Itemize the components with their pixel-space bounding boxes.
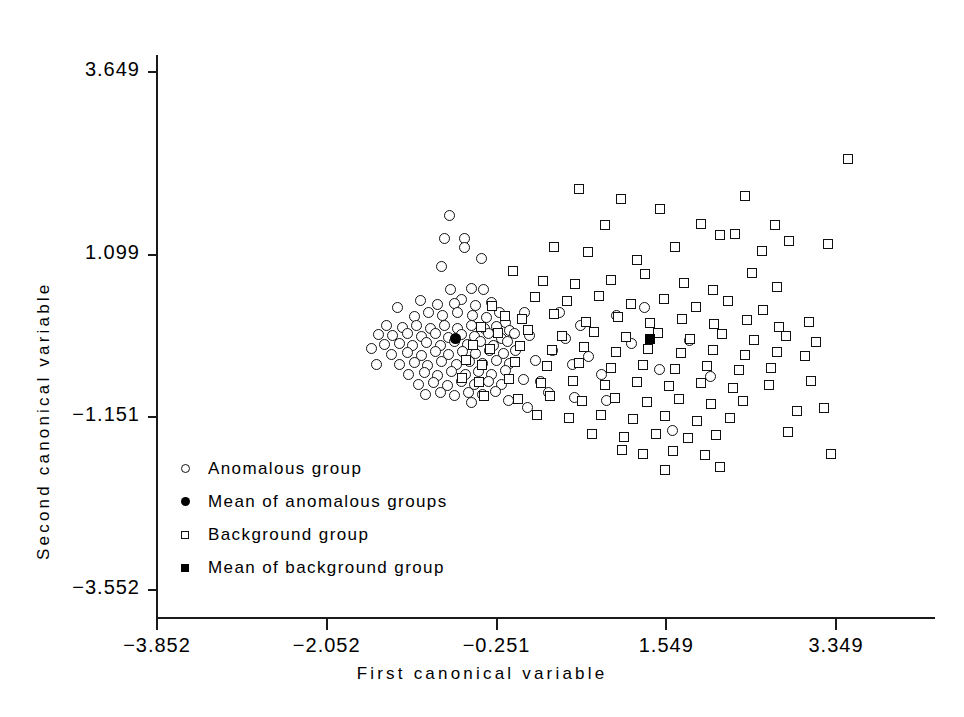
data-point-background: [594, 291, 604, 301]
data-point-anomalous: [439, 320, 450, 331]
data-point-background: [819, 403, 829, 413]
legend-item: Anomalous group: [176, 452, 448, 485]
data-point-anomalous: [466, 283, 477, 294]
data-point-anomalous: [639, 302, 650, 313]
data-point-anomalous: [530, 355, 541, 366]
x-tick-label: 3.349: [766, 634, 906, 657]
data-point-background: [523, 325, 533, 335]
x-tick-label: 1.549: [596, 634, 736, 657]
data-point-background: [642, 397, 652, 407]
data-point-background: [696, 378, 706, 388]
data-point-anomalous: [419, 367, 430, 378]
data-point-anomalous: [366, 343, 377, 354]
data-point-background: [485, 344, 495, 354]
y-tick-label: −1.151: [0, 403, 140, 426]
data-point-background: [638, 449, 648, 459]
data-point-anomalous: [466, 397, 477, 408]
data-point-background: [600, 220, 610, 230]
y-tick-label: 1.099: [0, 241, 140, 264]
data-point-background: [717, 329, 727, 339]
data-point-background: [457, 373, 467, 383]
data-point-background: [734, 365, 744, 375]
data-point-background: [758, 305, 768, 315]
data-point-background: [843, 154, 853, 164]
data-point-anomalous: [439, 233, 450, 244]
filled-square-icon: [181, 564, 189, 572]
legend-item-label: Mean of anomalous groups: [208, 492, 448, 512]
data-point-background: [655, 204, 665, 214]
data-point-background: [515, 341, 525, 351]
data-point-background: [617, 445, 627, 455]
data-point-background: [611, 347, 621, 357]
open-square-icon: [181, 531, 189, 539]
data-point-background: [706, 399, 716, 409]
data-point-anomalous: [654, 364, 665, 375]
data-point-anomalous: [459, 242, 470, 253]
x-tick-mark: [665, 619, 667, 630]
data-point-background: [766, 363, 776, 373]
data-point-background: [723, 296, 733, 306]
data-point-background: [747, 268, 757, 278]
scatter-plot-figure: 3.6491.099−1.151−3.552 −3.852−2.052−0.25…: [0, 0, 964, 717]
data-point-anomalous: [490, 386, 501, 397]
data-point-background: [545, 391, 555, 401]
data-point-background: [696, 219, 706, 229]
legend-item-label: Anomalous group: [208, 459, 362, 479]
data-point-background: [638, 360, 648, 370]
data-point-anomalous: [446, 366, 457, 377]
data-point-anomalous: [421, 337, 432, 348]
open-circle-icon: [181, 464, 190, 473]
y-tick-label: 3.649: [0, 58, 140, 81]
data-point-background: [579, 342, 589, 352]
data-point-anomalous: [394, 359, 405, 370]
data-point-background: [685, 334, 695, 344]
data-point-background: [643, 344, 653, 354]
data-point-background: [581, 317, 591, 327]
data-point-background: [800, 351, 810, 361]
data-point-anomalous: [402, 347, 413, 358]
data-point-anomalous: [392, 302, 403, 313]
data-point-background: [616, 194, 626, 204]
data-point-anomalous: [403, 369, 414, 380]
data-point-anomalous: [445, 284, 456, 295]
data-point-background: [702, 361, 712, 371]
data-point-background: [770, 220, 780, 230]
data-point-background: [784, 236, 794, 246]
data-point-anomalous: [436, 356, 447, 367]
data-point-background: [640, 269, 650, 279]
data-point-anomalous: [394, 338, 405, 349]
legend-item-label: Background group: [208, 525, 369, 545]
data-point-background: [574, 184, 584, 194]
data-point-anomalous: [463, 387, 474, 398]
data-point-background: [683, 433, 693, 443]
data-point-background: [568, 376, 578, 386]
data-point-anomalous: [476, 253, 487, 264]
x-tick-label: −3.852: [87, 634, 227, 657]
data-point-background: [711, 430, 721, 440]
x-tick-mark: [835, 619, 837, 630]
data-point-background: [628, 414, 638, 424]
data-point-background: [677, 314, 687, 324]
data-point-anomalous: [411, 320, 422, 331]
legend-marker-icon: [176, 531, 194, 539]
legend: Anomalous groupMean of anomalous groupsB…: [176, 452, 448, 584]
data-point-anomalous: [437, 310, 448, 321]
data-point-background: [613, 312, 623, 322]
data-point-background: [574, 358, 584, 368]
data-point-background: [676, 348, 686, 358]
data-point-background: [504, 374, 514, 384]
data-point-background: [749, 335, 759, 345]
data-point-background: [651, 429, 661, 439]
data-point-anomalous: [444, 210, 455, 221]
data-point-background: [709, 319, 719, 329]
data-point-background: [632, 377, 642, 387]
data-point-anomalous: [371, 359, 382, 370]
data-point-background: [679, 278, 689, 288]
x-tick-label: −2.052: [257, 634, 397, 657]
data-point-anomalous: [423, 307, 434, 318]
data-point-background: [632, 255, 642, 265]
data-point-background: [772, 347, 782, 357]
data-point-anomalous: [705, 371, 716, 382]
x-tick-mark: [156, 619, 158, 630]
data-point-background: [659, 294, 669, 304]
